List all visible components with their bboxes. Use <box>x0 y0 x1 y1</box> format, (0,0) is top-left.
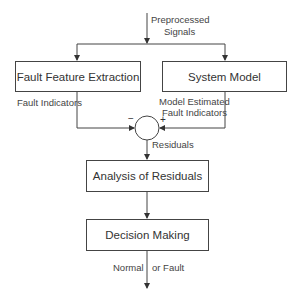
residuals-label: Residuals <box>152 139 194 150</box>
model-estimated-label-line2: Fault Indicators <box>162 107 227 118</box>
minus-sign: − <box>128 114 134 124</box>
decision-making-label: Decision Making <box>105 229 189 241</box>
output-label-fault: or Fault <box>152 262 184 273</box>
decision-making-box: Decision Making <box>86 219 209 251</box>
input-label-line1: Preprocessed <box>151 14 210 25</box>
fault-feature-extraction-box: Fault Feature Extraction <box>15 61 141 92</box>
system-model-box: System Model <box>162 61 287 92</box>
fault-indicators-label: Fault Indicators <box>17 97 82 108</box>
analysis-of-residuals-label: Analysis of Residuals <box>93 170 202 182</box>
system-model-label: System Model <box>188 71 261 83</box>
model-estimated-label-line1: Model Estimated <box>159 96 230 107</box>
plus-sign: + <box>160 115 166 125</box>
fault-feature-extraction-label: Fault Feature Extraction <box>17 71 140 83</box>
analysis-of-residuals-box: Analysis of Residuals <box>86 160 209 192</box>
input-label-line2: Signals <box>164 26 195 37</box>
output-label-normal: Normal <box>113 262 144 273</box>
